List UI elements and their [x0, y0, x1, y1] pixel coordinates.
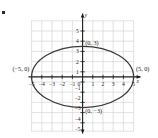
- y-tick-label-4: 4: [76, 38, 79, 44]
- annotation-left-vertex: (−5, 0): [12, 65, 29, 73]
- y-tick-label-1: 1: [76, 69, 79, 75]
- ellipse-graph-figure: −5 −4 −3 −2 −1 0 1 2 3 4 5 5 4 3 2 1 −1 …: [0, 0, 158, 138]
- coordinate-plane: −5 −4 −3 −2 −1 0 1 2 3 4 5 5 4 3 2 1 −1 …: [0, 0, 158, 138]
- x-tick-label-minus2: −2: [59, 81, 65, 87]
- x-tick-label-4: 4: [122, 81, 125, 87]
- y-tick-label-minus1: −1: [75, 85, 81, 91]
- x-tick-label-minus3: −3: [49, 81, 55, 87]
- x-tick-label-minus5: −5: [29, 81, 35, 87]
- y-axis-arrow-bottom-icon: [81, 130, 85, 134]
- y-tick-label-3: 3: [76, 48, 79, 54]
- x-tick-label-2: 2: [102, 81, 105, 87]
- x-tick-label-1: 1: [91, 81, 94, 87]
- y-axis-label: y: [84, 12, 88, 18]
- annotation-bottom-vertex: (0, −3): [85, 107, 102, 115]
- x-tick-label-3: 3: [112, 81, 115, 87]
- y-tick-label-minus4: −4: [75, 116, 81, 122]
- y-tick-label-5: 5: [76, 28, 79, 34]
- annotation-top-vertex: (0, 3): [85, 39, 98, 47]
- x-tick-label-5: 5: [132, 81, 135, 87]
- y-tick-label-2: 2: [76, 59, 79, 65]
- annotation-right-vertex: (5, 0): [136, 65, 149, 73]
- y-tick-label-minus3: −3: [75, 105, 81, 111]
- y-tick-label-minus5: −5: [75, 126, 81, 132]
- x-axis-label: x: [135, 78, 139, 84]
- y-tick-label-minus2: −2: [75, 95, 81, 101]
- x-tick-label-minus4: −4: [39, 81, 45, 87]
